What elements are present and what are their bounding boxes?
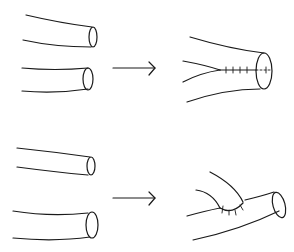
anastomosis-sutures bbox=[220, 203, 243, 215]
anastomosis-diagram bbox=[0, 0, 294, 252]
suture-line bbox=[220, 67, 272, 73]
diagram-svg bbox=[0, 0, 294, 252]
row2-after-joined-tubes bbox=[187, 172, 288, 240]
row2-arrow-icon bbox=[113, 192, 155, 205]
row2-before-tube-lower bbox=[13, 211, 98, 240]
row2-before-tube-upper bbox=[17, 148, 95, 175]
row1-arrow-icon bbox=[113, 62, 155, 75]
row1-before-tube-lower bbox=[22, 68, 93, 92]
row1-before-tube-upper bbox=[23, 15, 97, 47]
row1-after-joined-tubes bbox=[183, 37, 272, 102]
